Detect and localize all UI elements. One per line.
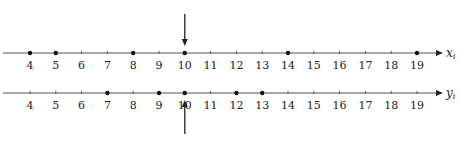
tick-label: 4 [27,59,34,72]
x-axis-label: xi [446,46,456,61]
tick-label: 5 [52,59,59,72]
tick-label: 4 [27,99,34,112]
tick-label: 5 [52,99,59,112]
y-number-line: yi45678910111213141516171819 [3,86,456,134]
tick-label: 11 [204,99,218,112]
tick-label: 19 [410,99,424,112]
tick-label: 7 [104,59,111,72]
tick-label: 9 [156,59,163,72]
tick-label: 14 [281,99,295,112]
data-point [415,51,419,55]
data-point [157,91,161,95]
tick-label: 16 [333,99,347,112]
tick-label: 6 [78,99,85,112]
axis-arrowhead-icon [436,90,443,96]
tick-label: 8 [130,59,137,72]
tick-label: 17 [358,59,372,72]
tick-label: 18 [384,59,398,72]
tick-label: 18 [384,99,398,112]
data-point [54,51,58,55]
tick-label: 12 [229,59,243,72]
data-point [286,51,290,55]
tick-label: 11 [204,59,218,72]
tick-label: 15 [307,59,321,72]
arrow-down-icon [182,39,188,46]
number-line-diagram: xi45678910111213141516171819yi4567891011… [0,0,459,142]
tick-label: 12 [229,99,243,112]
tick-label: 17 [358,99,372,112]
tick-label: 19 [410,59,424,72]
tick-label: 13 [255,59,269,72]
data-point [131,51,135,55]
x-number-line: xi45678910111213141516171819 [3,14,456,72]
tick-label: 10 [178,59,192,72]
tick-label: 14 [281,59,295,72]
data-point [105,91,109,95]
axis-arrowhead-icon [436,50,443,56]
data-point [260,91,264,95]
y-axis-label: yi [445,86,456,101]
data-point [28,51,32,55]
tick-label: 8 [130,99,137,112]
tick-label: 13 [255,99,269,112]
tick-label: 7 [104,99,111,112]
data-point [183,91,187,95]
data-point [234,91,238,95]
tick-label: 6 [78,59,85,72]
data-point [183,51,187,55]
tick-label: 9 [156,99,163,112]
tick-label: 15 [307,99,321,112]
tick-label: 16 [333,59,347,72]
